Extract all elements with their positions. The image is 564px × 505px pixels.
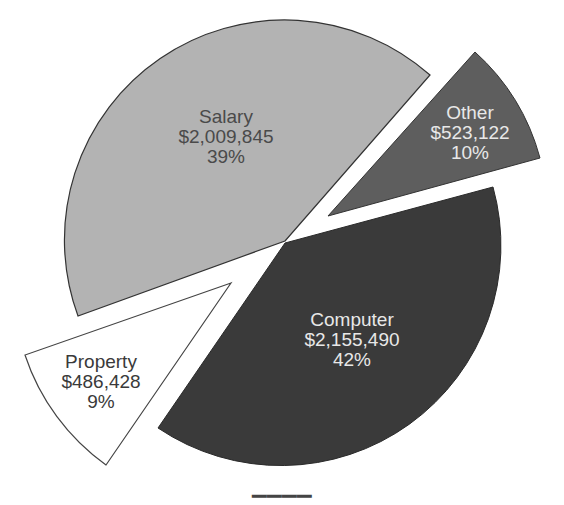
property-name: Property: [61, 352, 140, 372]
other-name: Other: [430, 103, 509, 123]
salary-name: Salary: [178, 107, 273, 127]
property-percent: 9%: [61, 392, 140, 412]
slice-label-computer: Computer $2,155,490 42%: [304, 310, 399, 370]
property-amount: $486,428: [61, 372, 140, 392]
other-percent: 10%: [430, 143, 509, 163]
chart-caption-cutoff: ▔▔▔▔: [252, 497, 312, 505]
salary-percent: 39%: [178, 147, 273, 167]
slice-label-other: Other $523,122 10%: [430, 103, 509, 163]
salary-amount: $2,009,845: [178, 127, 273, 147]
other-amount: $523,122: [430, 123, 509, 143]
computer-percent: 42%: [304, 350, 399, 370]
pie-chart: [0, 0, 564, 505]
computer-amount: $2,155,490: [304, 330, 399, 350]
slice-label-salary: Salary $2,009,845 39%: [178, 107, 273, 167]
slice-label-property: Property $486,428 9%: [61, 352, 140, 412]
computer-name: Computer: [304, 310, 399, 330]
